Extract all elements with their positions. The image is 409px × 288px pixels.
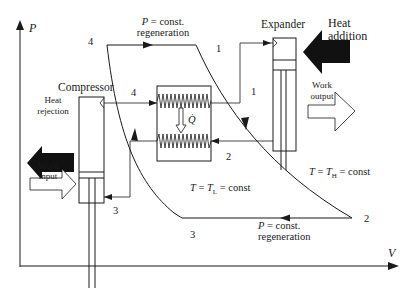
v-axis-arrow-icon (388, 262, 399, 270)
heat-rejection-label: Heat rejection (33, 95, 73, 117)
compressor-label: Compressor (58, 82, 114, 93)
expander-label: Expander (261, 19, 305, 30)
bottom-isobar-label-line2: regeneration (258, 231, 310, 242)
pipe-expander-to-regenerator (211, 138, 273, 144)
work-output-label: Work output (304, 80, 340, 102)
diagram-canvas (0, 0, 409, 288)
heat-addition-line2: addition (328, 30, 367, 43)
pipe-compressor-to-regenerator (104, 100, 157, 106)
bottom-isobar-label: P = const.P = const. regeneration (258, 220, 310, 242)
state-3-pipe: 3 (113, 205, 118, 216)
state-2-pipe: 2 (226, 151, 231, 162)
work-input-line2: input (30, 171, 66, 181)
expander-cylinder (273, 38, 296, 170)
state-2-bottom: 2 (364, 213, 369, 224)
work-input-label: Work input (30, 161, 66, 181)
top-isobar-label: PP = const. = const. regeneration (128, 16, 198, 38)
p-axis-label: P (29, 23, 36, 34)
p-axis-arrow-icon (16, 20, 24, 30)
isotherm-low-arrow-icon (131, 128, 138, 141)
v-axis-label: V (388, 248, 395, 259)
heat-rejection-line2: rejection (33, 106, 73, 117)
state-4-top: 4 (88, 36, 93, 47)
compressor-cylinder (79, 97, 104, 288)
heat-addition-label: Heat addition (328, 17, 367, 43)
regenerator (157, 86, 211, 161)
top-isobar (107, 42, 196, 49)
work-output-line2: output (304, 91, 340, 102)
state-1-pipe: 1 (251, 86, 256, 97)
top-isobar-label-line2: regeneration (128, 27, 198, 38)
v-axis (20, 262, 399, 270)
heat-rejection-line1: Heat (33, 95, 73, 106)
isotherm-low-tail: = const (217, 182, 250, 193)
isotherm-low-label: T = TL = const (190, 182, 250, 198)
p-axis (16, 20, 24, 267)
state-3-bottom: 3 (190, 229, 195, 240)
regenerator-q-label: Q̇ (188, 114, 196, 125)
state-4-pipe: 4 (131, 87, 136, 98)
state-1-top: 1 (216, 43, 221, 54)
isotherm-high-label: T = TH = const (309, 166, 370, 182)
isotherm-high-tail: = const (337, 166, 370, 177)
work-output-line1: Work (304, 80, 340, 91)
work-input-line1: Work (30, 161, 66, 171)
